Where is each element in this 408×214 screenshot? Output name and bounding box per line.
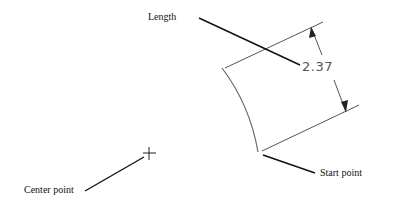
arc-length-diagram: Length 2.37 Start point Center point bbox=[0, 0, 408, 214]
diagram-graphics bbox=[0, 0, 408, 214]
dimension-value: 2.37 bbox=[302, 60, 333, 73]
center-point-leader-line bbox=[85, 157, 144, 191]
length-leader-line bbox=[199, 18, 300, 65]
start-point-leader-line bbox=[263, 155, 315, 173]
center-point-label: Center point bbox=[24, 185, 74, 195]
extension-line-bottom bbox=[262, 105, 359, 151]
arc bbox=[222, 68, 258, 152]
start-point-label: Start point bbox=[320, 168, 362, 178]
length-label: Length bbox=[148, 12, 176, 22]
